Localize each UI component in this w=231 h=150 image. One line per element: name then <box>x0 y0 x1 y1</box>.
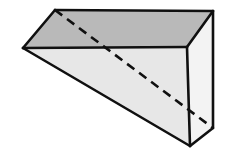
edge-top-back <box>55 10 213 11</box>
figure-canvas <box>0 0 231 150</box>
edge-front-top <box>23 47 187 48</box>
triangular-prism-drawing <box>0 0 231 150</box>
prism-faces <box>23 10 213 146</box>
